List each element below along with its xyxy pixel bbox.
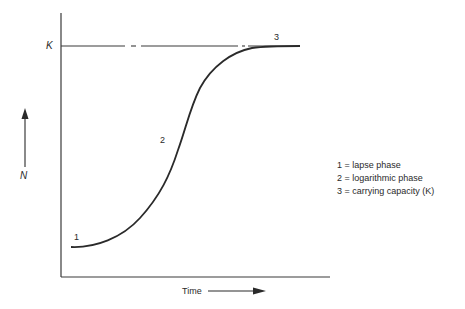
- growth-curve-diagram: [0, 0, 465, 309]
- time-label: Time: [182, 286, 202, 296]
- legend-item-carrying-capacity: 3 = carrying capacity (K): [337, 185, 434, 198]
- phase-marker-2: 2: [160, 135, 165, 145]
- phase-marker-1: 1: [74, 232, 79, 242]
- n-axis-arrow: [22, 108, 29, 167]
- phase-marker-3: 3: [274, 32, 279, 42]
- k-label: K: [46, 41, 53, 51]
- time-axis-arrow: [208, 288, 266, 295]
- n-label: N: [20, 171, 27, 181]
- legend-item-logarithmic: 2 = logarithmic phase: [337, 172, 434, 185]
- legend-item-lapse: 1 = lapse phase: [337, 159, 434, 172]
- growth-curve: [71, 46, 300, 247]
- legend: 1 = lapse phase 2 = logarithmic phase 3 …: [337, 159, 434, 198]
